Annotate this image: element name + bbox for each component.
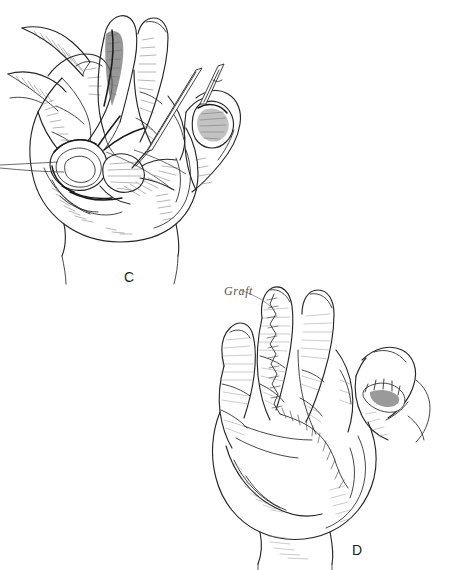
thumb-with-open-wound	[185, 91, 241, 192]
panel-label-c: C	[124, 269, 135, 285]
graft-annotation-label: Graft	[224, 284, 253, 299]
middle-finger-dissected	[98, 16, 137, 156]
forceps-instrument	[200, 64, 224, 104]
panel-d-illustration	[190, 280, 449, 570]
index-finger-d	[219, 323, 255, 448]
graft-suture-line-palm	[280, 408, 348, 488]
little-finger-d	[336, 350, 353, 432]
middle-finger-grafted	[257, 287, 293, 420]
retracted-skin-flap-upper-left	[22, 27, 90, 76]
panel-c-illustration	[0, 0, 280, 290]
panel-c-svg	[0, 0, 280, 290]
figure-container: C D Graft	[0, 0, 449, 570]
retracted-skin-flap-lower-left	[8, 72, 66, 111]
panel-label-d: D	[352, 542, 363, 558]
thumb-d	[355, 347, 430, 442]
ring-finger-d	[298, 290, 334, 434]
graft-suture-line-finger	[267, 294, 282, 414]
panel-d-svg	[190, 280, 449, 570]
